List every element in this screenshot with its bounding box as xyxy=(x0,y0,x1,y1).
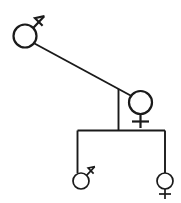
node-father[interactable] xyxy=(14,16,45,48)
pedigree-diagram: Family pedigree: two parents and two chi… xyxy=(0,0,181,203)
male-symbol-circle xyxy=(14,25,37,48)
female-symbol-circle xyxy=(157,173,173,189)
father-mother-partnership-line xyxy=(35,44,132,97)
node-mother[interactable] xyxy=(129,91,152,128)
male-symbol-circle xyxy=(73,173,89,189)
female-symbol-circle xyxy=(129,91,152,114)
node-child-daughter[interactable] xyxy=(157,173,173,199)
pedigree-canvas xyxy=(0,0,181,203)
node-child-son[interactable] xyxy=(73,167,95,189)
connector-lines xyxy=(35,44,166,174)
